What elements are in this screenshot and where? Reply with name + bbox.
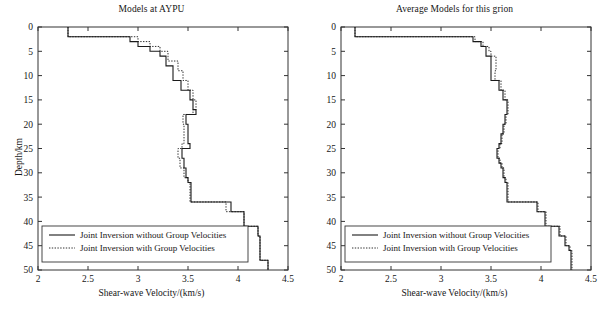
plot-panel-left: Models at AYPU 22.533.544.50510152025303… (0, 0, 303, 300)
y-axis-label-left: Depth/km (14, 138, 24, 176)
svg-text:10: 10 (327, 71, 337, 81)
svg-text:3: 3 (136, 274, 141, 284)
plot-area-left: 22.533.544.505101520253035404550Joint In… (0, 0, 303, 300)
x-axis-label-right: Shear-wave Velocity/(km/s) (303, 288, 606, 298)
svg-text:10: 10 (24, 71, 34, 81)
svg-text:50: 50 (24, 265, 34, 275)
figure-bottom-margin (0, 300, 607, 312)
svg-text:5: 5 (28, 47, 33, 57)
svg-text:2: 2 (339, 274, 344, 284)
svg-text:0: 0 (331, 22, 336, 32)
svg-text:3: 3 (439, 274, 444, 284)
svg-text:4.5: 4.5 (282, 274, 294, 284)
svg-text:4: 4 (539, 274, 544, 284)
svg-text:25: 25 (24, 144, 34, 154)
figure-canvas: Models at AYPU 22.533.544.50510152025303… (0, 0, 607, 312)
svg-text:30: 30 (24, 168, 34, 178)
svg-text:15: 15 (327, 95, 337, 105)
svg-text:50: 50 (327, 265, 337, 275)
svg-text:45: 45 (24, 241, 34, 251)
plot-panel-right: Average Models for this grion 22.533.544… (303, 0, 606, 300)
svg-text:4: 4 (236, 274, 241, 284)
svg-text:20: 20 (24, 120, 34, 130)
svg-text:15: 15 (24, 95, 34, 105)
svg-text:45: 45 (327, 241, 337, 251)
plot-area-right: 22.533.544.505101520253035404550Joint In… (303, 0, 606, 300)
legend-right-dotted-label: Joint Inversion with Group Velocities (383, 243, 518, 253)
svg-text:40: 40 (24, 217, 34, 227)
legend-left-solid-label: Joint Inversion without Group Velocities (80, 230, 227, 240)
svg-text:5: 5 (331, 47, 336, 57)
svg-text:0: 0 (28, 22, 33, 32)
svg-text:2: 2 (36, 274, 41, 284)
legend-right-solid-label: Joint Inversion without Group Velocities (383, 230, 530, 240)
svg-text:2.5: 2.5 (385, 274, 397, 284)
svg-text:20: 20 (327, 120, 337, 130)
svg-text:25: 25 (327, 144, 337, 154)
legend-left-dotted-label: Joint Inversion with Group Velocities (80, 243, 215, 253)
svg-text:3.5: 3.5 (182, 274, 194, 284)
svg-text:40: 40 (327, 217, 337, 227)
svg-text:4.5: 4.5 (585, 274, 597, 284)
svg-text:30: 30 (327, 168, 337, 178)
x-axis-label-left: Shear-wave Velocity/(km/s) (0, 288, 303, 298)
svg-text:3.5: 3.5 (485, 274, 497, 284)
svg-text:2.5: 2.5 (82, 274, 94, 284)
svg-text:35: 35 (24, 193, 34, 203)
svg-text:35: 35 (327, 193, 337, 203)
